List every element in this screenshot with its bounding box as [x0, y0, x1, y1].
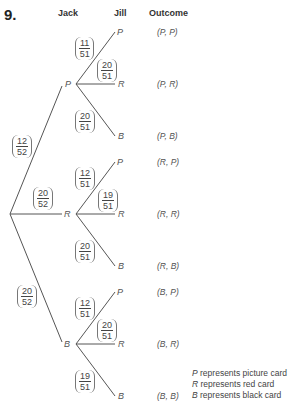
header-outcome: Outcome	[149, 8, 188, 18]
question-number: 9.	[4, 6, 17, 23]
prob-jill-RB: 20 51	[75, 240, 95, 263]
node-jill-PR: R	[118, 79, 125, 89]
prob-jack-R: 20 52	[33, 187, 53, 210]
outcome-RB: (R, B)	[157, 261, 179, 271]
outcome-PP: (P, P)	[157, 27, 178, 37]
outcome-BP: (B, P)	[157, 287, 179, 297]
node-jill-RB: B	[118, 261, 124, 271]
node-jack-B: B	[64, 339, 70, 349]
prob-jill-BP: 12 51	[75, 297, 95, 320]
node-jill-PB: B	[118, 131, 124, 141]
outcome-RR: (R, R)	[157, 209, 180, 219]
legend-item-black: B represents black card	[192, 390, 287, 401]
node-jill-BP: P	[117, 287, 123, 297]
prob-jill-BB: 19 51	[75, 370, 95, 393]
legend: P represents picture card R represents r…	[192, 368, 287, 401]
prob-jill-PR: 20 51	[97, 59, 117, 82]
node-jill-RP: P	[117, 157, 123, 167]
prob-jill-RR: 19 51	[98, 189, 118, 212]
outcome-BB: (B, B)	[157, 391, 179, 401]
branch-root-B	[10, 214, 62, 342]
outcome-RP: (R, P)	[157, 157, 179, 167]
prob-jill-BR: 20 51	[97, 319, 117, 342]
node-jill-RR: R	[118, 209, 125, 219]
prob-jill-RP: 12 51	[75, 167, 95, 190]
prob-jill-PB: 20 51	[75, 110, 95, 133]
header-jill: Jill	[114, 8, 127, 18]
node-jill-PP: P	[117, 27, 123, 37]
outcome-BR: (B, R)	[157, 339, 179, 349]
prob-jack-P: 12 52	[12, 135, 32, 158]
header-jack: Jack	[58, 8, 78, 18]
node-jill-BR: R	[118, 339, 125, 349]
node-jack-P: P	[65, 79, 71, 89]
outcome-PB: (P, B)	[157, 131, 178, 141]
prob-jack-B: 20 52	[17, 285, 37, 308]
node-jack-R: R	[64, 209, 71, 219]
legend-item-picture: P represents picture card	[192, 368, 287, 379]
prob-jill-PP: 11 51	[75, 37, 94, 60]
outcome-PR: (P, R)	[157, 79, 178, 89]
legend-item-red: R represents red card	[192, 379, 287, 390]
node-jill-BB: B	[118, 391, 124, 401]
